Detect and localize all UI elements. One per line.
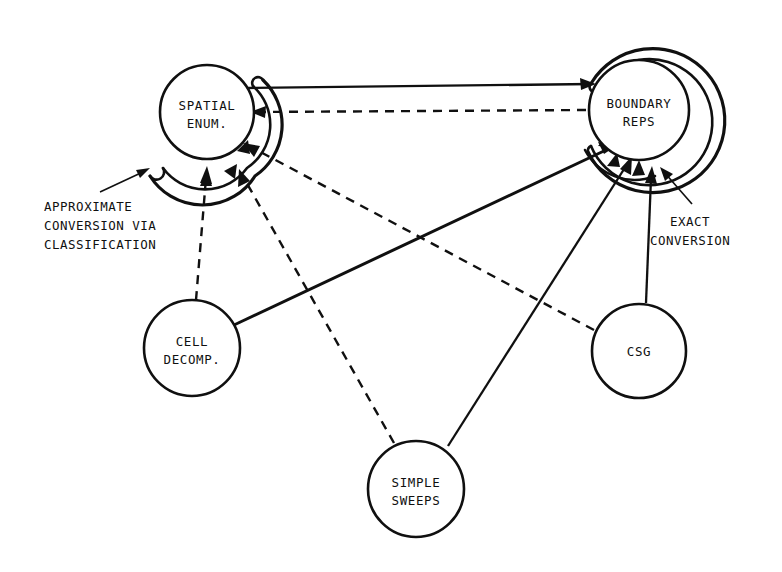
edge-simple-sweeps-to-spatial-enum[interactable] [238,169,394,443]
edge-simple-sweeps-to-boundary-reps[interactable] [448,156,632,446]
node-boundary-reps-label-line1: BOUNDARY [606,96,671,111]
annotation-approximate-conversion-line2: CONVERSION VIA [44,218,156,233]
annotation-exact-conversion: EXACT CONVERSION [650,167,730,248]
representation-conversion-diagram: SPATIAL ENUM. BOUNDARY REPS CELL DECOMP.… [0,0,782,572]
edge-spatial-enum-to-boundary-reps[interactable] [248,78,596,90]
diagram-canvas: SPATIAL ENUM. BOUNDARY REPS CELL DECOMP.… [0,0,782,572]
arrowhead-icon [136,168,150,178]
annotation-exact-conversion-line1: EXACT [670,214,710,229]
arrowhead-icon [632,160,645,176]
node-spatial-enum-label-line1: SPATIAL [179,98,236,113]
edge-csg-to-spatial-enum[interactable] [243,143,594,330]
node-spatial-enum-label-line2: ENUM. [187,116,228,131]
edge-layer [196,78,657,446]
node-simple-sweeps-label-line2: SWEEPS [392,493,441,508]
node-spatial-enum[interactable]: SPATIAL ENUM. [160,65,254,159]
node-boundary-reps-label-line2: REPS [623,114,656,129]
node-csg[interactable]: CSG [592,304,686,398]
node-csg-label-line1: CSG [627,344,651,359]
edge-cell-decomp-to-spatial-enum[interactable] [196,166,212,300]
edge-boundary-reps-to-spatial-enum[interactable] [250,106,586,118]
node-cell-decomp-label-line1: CELL [176,334,209,349]
annotation-approximate-conversion-line1: APPROXIMATE [44,199,132,214]
node-cell-decomp[interactable]: CELL DECOMP. [144,300,240,396]
node-layer: SPATIAL ENUM. BOUNDARY REPS CELL DECOMP.… [144,60,689,537]
arrowhead-icon [224,164,237,179]
node-boundary-reps[interactable]: BOUNDARY REPS [589,60,689,160]
node-simple-sweeps-label-line1: SIMPLE [392,475,441,490]
annotation-approximate-conversion: APPROXIMATE CONVERSION VIA CLASSIFICATIO… [44,168,156,252]
annotation-exact-conversion-line2: CONVERSION [650,233,730,248]
annotation-approximate-conversion-line3: CLASSIFICATION [44,237,156,252]
node-cell-decomp-label-line2: DECOMP. [164,352,221,367]
node-simple-sweeps[interactable]: SIMPLE SWEEPS [368,441,464,537]
